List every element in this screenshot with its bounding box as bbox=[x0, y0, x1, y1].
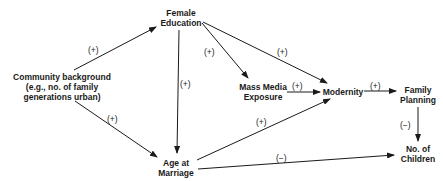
edge-community-to-marriage bbox=[75, 101, 157, 157]
node-family-planning: Family Planning bbox=[396, 85, 440, 105]
sign-marriage-children: (−) bbox=[276, 153, 287, 163]
node-community-background: Community background (e.g., no. of famil… bbox=[4, 72, 120, 102]
node-female-education: Female Education bbox=[158, 8, 204, 28]
node-age-at-marriage: Age at Marriage bbox=[156, 158, 196, 178]
sign-education-marriage: (+) bbox=[180, 79, 191, 89]
node-mass-media-exposure: Mass Media Exposure bbox=[237, 82, 289, 102]
sign-community-marriage: (+) bbox=[107, 114, 118, 124]
sign-planning-children: (−) bbox=[400, 120, 411, 130]
edge-marriage-to-children bbox=[198, 155, 394, 169]
node-no-of-children: No. of Children bbox=[396, 144, 440, 164]
sign-marriage-modernity: (+) bbox=[256, 117, 267, 127]
sign-massmedia-modernity: (+) bbox=[292, 81, 303, 91]
edge-community-to-education bbox=[74, 27, 156, 70]
edge-education-to-marriage bbox=[177, 30, 179, 153]
sign-education-massmedia: (+) bbox=[204, 47, 215, 57]
sign-education-modernity: (+) bbox=[277, 47, 288, 57]
node-modernity: Modernity bbox=[322, 87, 364, 97]
edge-marriage-to-modernity bbox=[197, 99, 330, 160]
edge-education-to-modernity bbox=[203, 22, 327, 83]
sign-modernity-planning: (+) bbox=[370, 81, 381, 91]
sign-community-education: (+) bbox=[88, 45, 99, 55]
